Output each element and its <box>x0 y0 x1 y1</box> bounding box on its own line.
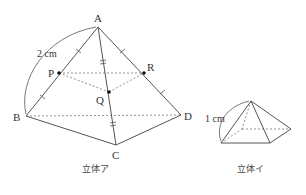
dimension-arc-ab <box>25 27 96 114</box>
tick-qc-1 <box>110 122 116 123</box>
label-a: A <box>94 12 102 24</box>
edge-ad <box>98 27 181 115</box>
label-d: D <box>184 110 192 122</box>
dimension-label-1cm: 1 cm <box>205 113 225 124</box>
point-p <box>57 71 61 75</box>
point-r <box>142 71 146 75</box>
edge-b-hidden-apex <box>242 101 251 129</box>
tick-aq-2 <box>100 63 106 64</box>
edge-bc <box>26 116 116 145</box>
point-q <box>107 90 111 94</box>
segment-qr <box>109 73 144 92</box>
edge-b-right <box>270 129 291 143</box>
label-p: P <box>48 67 54 79</box>
edge-cd <box>116 115 181 145</box>
tick-qc-2 <box>110 125 116 126</box>
caption-solid-a: 立体ア <box>82 163 109 174</box>
tick-aq-1 <box>100 60 106 61</box>
edge-ab <box>26 27 98 116</box>
tick-rd <box>160 90 165 94</box>
edge-ac <box>98 27 116 145</box>
edge-bd-hidden <box>26 115 181 116</box>
label-c: C <box>112 149 119 161</box>
figure-canvas: A B C D P Q R 2 cm 立体ア 1 cm 立体イ <box>0 0 306 195</box>
edge-b-hidden-left <box>221 129 242 143</box>
label-b: B <box>13 111 20 123</box>
solid-b: 1 cm 立体イ <box>205 101 291 174</box>
label-q: Q <box>96 94 104 106</box>
dimension-label-2cm: 2 cm <box>37 48 57 59</box>
solid-a: A B C D P Q R 2 cm 立体ア <box>13 12 192 174</box>
caption-solid-b: 立体イ <box>237 163 264 174</box>
edge-b-apex-left <box>221 101 251 143</box>
segment-pq <box>59 73 109 92</box>
label-r: R <box>147 61 155 73</box>
